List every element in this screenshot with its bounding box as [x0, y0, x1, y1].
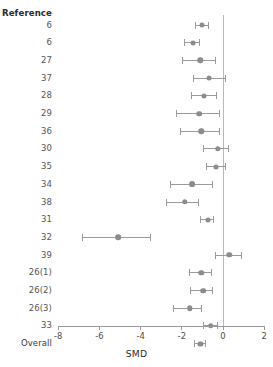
- ci-cap-upper: [208, 22, 209, 29]
- effect-estimate-marker: [206, 76, 211, 81]
- ci-cap-lower: [166, 199, 167, 206]
- x-axis-tick: [140, 326, 141, 330]
- ci-cap-upper: [212, 287, 213, 294]
- ci-cap-lower: [176, 110, 177, 117]
- effect-estimate-marker: [198, 58, 203, 63]
- x-axis-tick-label: -8: [54, 331, 62, 341]
- effect-estimate-marker: [202, 93, 207, 98]
- effect-estimate-marker: [226, 252, 231, 257]
- x-axis-tick-label: 0: [220, 331, 225, 341]
- x-axis-tick: [58, 326, 59, 330]
- ci-cap-lower: [215, 252, 216, 259]
- ci-cap-lower: [203, 145, 204, 152]
- study-row: [0, 267, 273, 279]
- study-row: [0, 143, 273, 155]
- ci-cap-upper: [198, 199, 199, 206]
- effect-estimate-marker: [187, 305, 192, 310]
- ci-cap-lower: [184, 39, 185, 46]
- ci-cap-lower: [182, 57, 183, 64]
- x-axis-tick: [223, 326, 224, 330]
- ci-cap-upper: [219, 128, 220, 135]
- effect-estimate-marker: [197, 111, 203, 117]
- x-axis-line: [58, 326, 264, 327]
- study-row: [0, 196, 273, 208]
- plot-area: [0, 0, 273, 330]
- ci-cap-upper: [219, 110, 220, 117]
- ci-cap-upper: [211, 269, 212, 276]
- forest-plot: Reference6627372829363035343831323926(1)…: [0, 0, 273, 367]
- ci-cap-upper: [228, 145, 229, 152]
- ci-cap-lower: [206, 163, 207, 170]
- effect-estimate-marker: [189, 181, 195, 187]
- effect-estimate-marker: [213, 164, 218, 169]
- study-row: [0, 214, 273, 226]
- ci-cap-lower: [190, 287, 191, 294]
- x-axis-title: SMD: [0, 348, 273, 359]
- ci-cap-lower: [195, 22, 196, 29]
- study-row: [0, 54, 273, 66]
- x-axis-tick-label: 2: [262, 331, 267, 341]
- study-row: [0, 72, 273, 84]
- effect-estimate-marker: [115, 235, 121, 241]
- x-axis-tick: [181, 326, 182, 330]
- effect-estimate-marker: [199, 270, 204, 275]
- effect-estimate-marker: [182, 199, 187, 204]
- study-row: [0, 19, 273, 31]
- study-row: [0, 161, 273, 173]
- ci-cap-lower: [82, 234, 83, 241]
- effect-estimate-marker: [215, 146, 220, 151]
- ci-cap-upper: [150, 234, 151, 241]
- ci-cap-upper: [213, 216, 214, 223]
- ci-cap-lower: [173, 305, 174, 312]
- study-row: [0, 249, 273, 261]
- x-axis-tick-label: -6: [95, 331, 103, 341]
- ci-cap-lower: [170, 181, 171, 188]
- ci-cap-upper: [212, 181, 213, 188]
- ci-cap-upper: [225, 75, 226, 82]
- ci-cap-lower: [189, 269, 190, 276]
- study-row: [0, 302, 273, 314]
- ci-cap-lower: [191, 92, 192, 99]
- ci-cap-upper: [216, 92, 217, 99]
- ci-cap-upper: [225, 163, 226, 170]
- study-row: [0, 37, 273, 49]
- ci-cap-upper: [199, 39, 200, 46]
- x-axis-tick: [99, 326, 100, 330]
- study-row: [0, 231, 273, 243]
- ci-cap-lower: [200, 216, 201, 223]
- ci-cap-upper: [241, 252, 242, 259]
- effect-estimate-marker: [191, 40, 196, 45]
- ci-cap-lower: [193, 75, 194, 82]
- effect-estimate-marker: [200, 23, 205, 28]
- x-axis-tick-label: -2: [178, 331, 186, 341]
- x-axis-tick-label: -4: [136, 331, 144, 341]
- ci-cap-upper: [201, 305, 202, 312]
- study-row: [0, 178, 273, 190]
- study-row: [0, 108, 273, 120]
- x-axis: SMD -8-6-4-202: [0, 326, 273, 366]
- study-row: [0, 285, 273, 297]
- ci-cap-lower: [180, 128, 181, 135]
- ci-cap-upper: [215, 57, 216, 64]
- study-row: [0, 90, 273, 102]
- effect-estimate-marker: [199, 128, 204, 133]
- effect-estimate-marker: [205, 217, 210, 222]
- study-row: [0, 125, 273, 137]
- x-axis-tick: [264, 326, 265, 330]
- effect-estimate-marker: [201, 288, 207, 294]
